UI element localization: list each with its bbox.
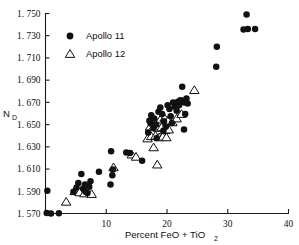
data-point-apollo-11 (87, 178, 94, 185)
x-axis-title-sub: 2 (214, 235, 218, 242)
data-point-apollo-11 (139, 157, 146, 164)
data-point-apollo-11 (110, 166, 117, 173)
y-tick-label: 1. 710 (17, 53, 41, 63)
axes-group (45, 13, 289, 214)
data-point-apollo-11 (151, 115, 158, 122)
data-points-layer (43, 11, 258, 216)
scatter-plot: 1. 5701. 5901. 6101. 6301. 6501. 6701. 6… (0, 0, 299, 245)
data-point-apollo-11 (173, 107, 180, 114)
data-point-apollo-11 (86, 184, 93, 191)
x-tick-label: 30 (223, 219, 233, 229)
data-point-apollo-11 (245, 26, 252, 33)
y-axis-title-main: N (3, 108, 10, 119)
legend-label: Apollo 12 (86, 48, 125, 59)
data-point-apollo-11 (96, 169, 103, 176)
legend-marker-open-triangle-icon (65, 50, 74, 58)
y-axis-title-sub: D (12, 114, 17, 121)
y-tick-label: 1. 670 (17, 98, 41, 108)
data-point-apollo-11 (108, 148, 115, 155)
legend-marker-filled-circle-icon (67, 33, 74, 40)
y-tick-label: 1. 750 (17, 9, 41, 19)
x-tick-label: 40 (284, 219, 294, 229)
x-tick-group: 10203040 (46, 209, 294, 229)
y-tick-group: 1. 5701. 5901. 6101. 6301. 6501. 6701. 6… (17, 9, 49, 219)
data-point-apollo-11 (48, 210, 55, 217)
data-point-apollo-11 (145, 129, 152, 136)
data-point-apollo-11 (243, 11, 250, 18)
data-point-apollo-11 (75, 180, 82, 187)
data-point-apollo-11 (181, 126, 188, 133)
data-point-apollo-11 (179, 84, 186, 91)
data-point-apollo-11 (167, 113, 174, 120)
y-tick-label: 1. 590 (17, 187, 41, 197)
data-point-apollo-12 (61, 198, 70, 206)
y-tick-label: 1. 630 (17, 142, 41, 152)
y-axis-title: N D (3, 108, 17, 121)
data-point-apollo-11 (78, 171, 85, 178)
data-point-apollo-11 (127, 150, 134, 157)
y-tick-label: 1. 730 (17, 31, 41, 41)
data-point-apollo-11 (182, 111, 189, 118)
data-point-apollo-11 (213, 64, 220, 71)
y-tick-label: 1. 610 (17, 164, 41, 174)
data-point-apollo-11 (157, 104, 164, 111)
x-tick-label: 20 (162, 219, 172, 229)
data-point-apollo-11 (161, 118, 168, 125)
data-point-apollo-12 (190, 86, 199, 94)
data-point-apollo-11 (214, 44, 221, 51)
data-point-apollo-11 (252, 26, 259, 33)
x-axis-title-main: Percent FeO + TiO (125, 229, 205, 240)
data-point-apollo-11 (160, 127, 167, 134)
data-point-apollo-11 (109, 172, 116, 179)
data-point-apollo-11 (169, 120, 176, 127)
y-tick-label: 1. 690 (17, 75, 41, 85)
data-point-apollo-11 (56, 210, 63, 217)
legend: Apollo 11Apollo 12 (65, 30, 125, 59)
x-axis-title: Percent FeO + TiO 2 (125, 229, 218, 242)
y-tick-label: 1. 650 (17, 120, 41, 130)
data-point-apollo-11 (159, 111, 166, 118)
legend-item-apollo-11[interactable]: Apollo 11 (67, 30, 125, 41)
y-tick-label: 1. 570 (17, 209, 41, 219)
figure-container: 1. 5701. 5901. 6101. 6301. 6501. 6701. 6… (0, 0, 299, 245)
data-point-apollo-11 (84, 190, 91, 197)
data-point-apollo-12 (149, 143, 158, 151)
x-tick-label: 10 (102, 219, 112, 229)
legend-item-apollo-12[interactable]: Apollo 12 (65, 48, 125, 59)
data-point-apollo-11 (153, 121, 160, 128)
data-point-apollo-11 (107, 181, 114, 188)
data-point-apollo-11 (44, 187, 51, 194)
legend-label: Apollo 11 (86, 30, 124, 41)
series-apollo-11 (43, 11, 258, 216)
data-point-apollo-11 (184, 100, 191, 107)
data-point-apollo-11 (153, 135, 160, 142)
data-point-apollo-12 (153, 160, 162, 168)
